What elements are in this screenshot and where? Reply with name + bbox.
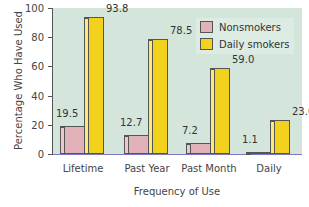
bar-side	[148, 40, 153, 154]
bar-side	[124, 136, 129, 154]
value-label: 59.0	[232, 54, 254, 65]
y-tick-label: 100	[25, 3, 44, 14]
nonsmokers-bar	[186, 143, 212, 154]
daily-smokers-bar	[148, 39, 168, 154]
nonsmokers-bar	[60, 126, 86, 154]
daily-smokers-bar	[84, 17, 104, 154]
bar-side	[210, 69, 215, 154]
value-label: 7.2	[182, 125, 198, 136]
value-label: 19.5	[56, 108, 78, 119]
bar-side	[60, 127, 65, 154]
value-label: 93.8	[106, 3, 128, 14]
legend-label: Daily smokers	[219, 39, 289, 50]
legend-item-nonsmokers: Nonsmokers	[200, 21, 281, 33]
y-tick-label: 20	[31, 119, 44, 130]
legend: Nonsmokers Daily smokers	[196, 18, 294, 54]
y-tick	[48, 154, 53, 155]
bar-side	[186, 144, 191, 154]
value-label: 23.0	[292, 106, 309, 117]
category-label: Daily	[239, 163, 299, 174]
y-tick	[48, 37, 53, 38]
y-axis-label: Percentage Who Have Used	[13, 1, 24, 161]
legend-item-daily-smokers: Daily smokers	[200, 38, 289, 50]
y-tick	[48, 125, 53, 126]
daily-smokers-bar	[270, 120, 290, 154]
value-label: 1.1	[242, 134, 258, 145]
y-tick-label: 40	[31, 90, 44, 101]
x-axis-baseline	[52, 154, 302, 155]
daily-smokers-bar	[210, 68, 230, 154]
nonsmokers-swatch	[200, 21, 213, 33]
y-tick	[48, 96, 53, 97]
x-axis-label: Frequency of Use	[52, 186, 302, 197]
value-label: 78.5	[170, 25, 192, 36]
nonsmokers-bar	[246, 152, 272, 154]
y-tick	[48, 8, 53, 9]
daily-smokers-swatch	[200, 38, 213, 50]
y-axis	[52, 8, 53, 154]
category-label: Past Year	[117, 163, 177, 174]
category-label: Lifetime	[53, 163, 113, 174]
bar-side	[246, 153, 251, 155]
legend-label: Nonsmokers	[219, 22, 281, 33]
bar-side	[84, 18, 89, 154]
y-tick	[48, 66, 53, 67]
value-label: 12.7	[120, 117, 142, 128]
y-tick-label: 80	[31, 32, 44, 43]
y-tick-label: 0	[38, 149, 44, 160]
bar-side	[270, 121, 275, 154]
nonsmokers-bar	[124, 135, 150, 154]
category-label: Past Month	[179, 163, 239, 174]
y-tick-label: 60	[31, 61, 44, 72]
